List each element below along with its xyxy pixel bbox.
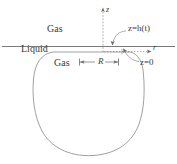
label-z-axis: z <box>106 6 109 14</box>
r-axis-arrowhead <box>147 50 152 54</box>
surface-height-leader-arrowhead <box>111 41 115 46</box>
label-gas-bubble: Gas <box>54 58 70 68</box>
label-radius: R <box>98 57 104 66</box>
label-liquid: Liquid <box>21 44 48 54</box>
label-gas-upper: Gas <box>47 24 63 34</box>
diagram-canvas <box>0 0 177 164</box>
label-surface-height: z=h(t) <box>128 24 150 33</box>
surface-height-leader <box>113 31 126 42</box>
bubble-diagram-figure: Gas Liquid Gas z r z=h(t) z=0 R <box>0 0 177 164</box>
label-r-axis: r <box>153 44 156 52</box>
z-axis-arrowhead <box>101 8 105 13</box>
bubble-outline <box>33 52 144 156</box>
label-bubble-top-level: z=0 <box>140 58 154 67</box>
